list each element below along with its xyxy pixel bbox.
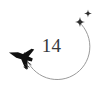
flight-countdown-badge: 14 [0, 0, 102, 90]
badge-artwork [0, 0, 102, 90]
sparkle-large-icon [75, 17, 85, 27]
sparkle-small-icon [84, 10, 92, 18]
airplane-icon [6, 42, 36, 69]
circular-flight-path-arc [25, 22, 90, 80]
